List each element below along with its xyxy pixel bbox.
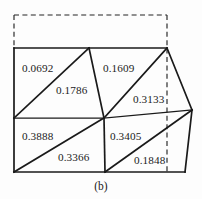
element-value-label-8: 0.1848 — [134, 154, 165, 166]
edge-upper-left-vertical — [89, 48, 104, 118]
figure-caption: (b) — [0, 180, 202, 192]
element-value-label-1: 0.0692 — [22, 62, 53, 74]
edge-upper-left-diagonal — [14, 48, 89, 118]
element-value-label-7: 0.3405 — [110, 130, 141, 142]
element-value-label-6: 0.3366 — [58, 151, 89, 163]
element-value-label-2: 0.1786 — [56, 84, 87, 96]
boundary-lower-right-slope — [185, 110, 192, 172]
edge-lower-left-diagonal — [14, 118, 104, 172]
edge-lower-middle-vertical — [104, 118, 105, 172]
element-value-label-3: 0.1609 — [103, 62, 134, 74]
boundary-upper-right-slope — [167, 48, 192, 110]
edge-upper-right-diagonal — [104, 48, 167, 118]
edge-midline-right — [104, 110, 192, 118]
element-value-label-4: 0.3133 — [133, 93, 164, 105]
mesh-figure: 0.0692 0.1786 0.1609 0.3133 0.3888 0.336… — [0, 0, 202, 199]
element-value-label-5: 0.3888 — [22, 130, 53, 142]
mesh-diagram-svg — [0, 0, 202, 199]
